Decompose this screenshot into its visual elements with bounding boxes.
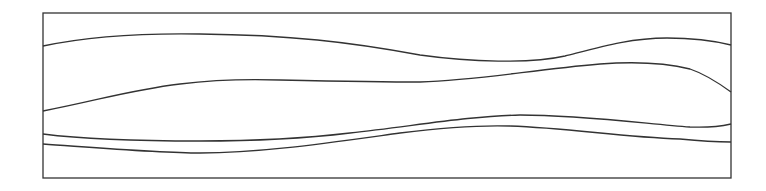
curve-1 bbox=[43, 34, 731, 61]
curves-group bbox=[43, 34, 731, 153]
curve-4 bbox=[43, 126, 731, 153]
bounding-frame bbox=[43, 13, 731, 178]
curve-2 bbox=[43, 63, 731, 111]
curve-3 bbox=[43, 115, 731, 141]
diagram-canvas bbox=[0, 0, 766, 191]
